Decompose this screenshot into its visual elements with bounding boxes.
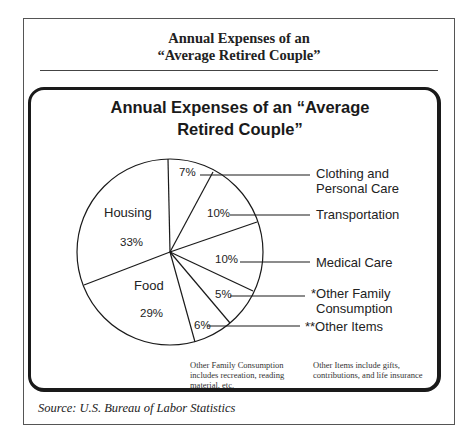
callout-clothing-line-1: Clothing and [316, 166, 399, 181]
callout-clothing-line-2: Personal Care [316, 181, 399, 196]
pct-other-family: 5% [215, 287, 232, 302]
callout-medical: Medical Care [316, 255, 393, 270]
pct-other-items: 6% [194, 318, 211, 333]
note-other-items: Other Items include gifts, contributions… [313, 360, 423, 380]
callout-other-family-line-1: *Other Family [311, 286, 393, 301]
pct-housing: 33% [120, 235, 143, 250]
note-other-family: Other Family Consumption includes recrea… [190, 360, 300, 390]
pct-medical: 10% [215, 252, 238, 267]
pct-food: 29% [140, 306, 163, 321]
callout-transportation: Transportation [316, 207, 399, 222]
callout-other-family: *Other Family Consumption [311, 286, 393, 316]
label-food: Food [134, 278, 164, 293]
pct-transportation: 10% [207, 206, 230, 221]
label-housing: Housing [104, 205, 152, 220]
callout-clothing: Clothing and Personal Care [316, 166, 399, 196]
pct-clothing: 7% [179, 165, 196, 180]
callout-other-items: **Other Items [305, 319, 383, 334]
callout-other-family-line-2: Consumption [311, 301, 393, 316]
source-caption: Source: U.S. Bureau of Labor Statistics [38, 401, 235, 416]
